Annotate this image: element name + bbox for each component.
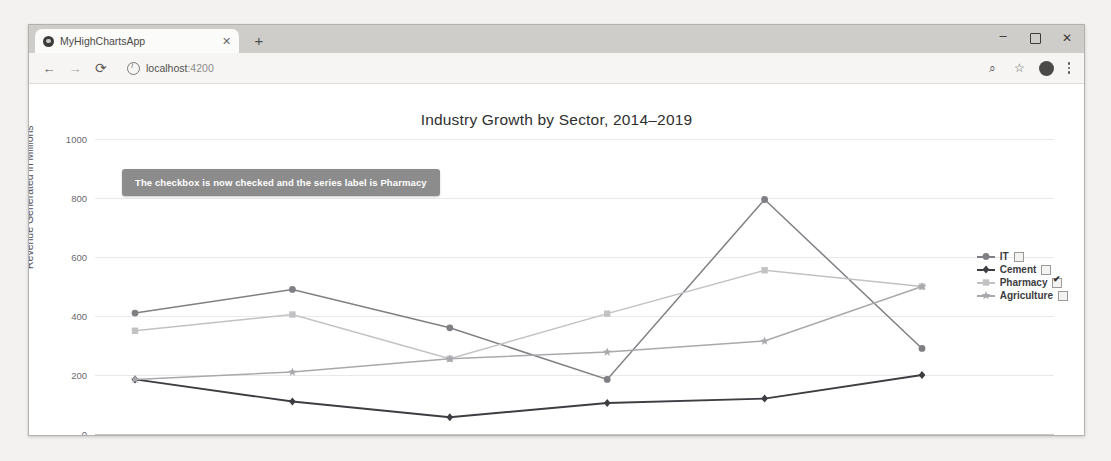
chart-legend: ITCementPharmacyAgriculture [977,251,1068,301]
data-point-cement-2015[interactable] [289,398,296,406]
data-point-agriculture-2017[interactable] [603,347,612,355]
series-line-cement [135,375,922,417]
zoom-icon[interactable]: ⌕ [983,58,1003,78]
legend-item-it[interactable]: IT [977,251,1068,262]
toolbar-right-actions: ⌕ ☆ [983,58,1076,78]
data-point-it-2016[interactable] [446,324,453,331]
address-bar-url: localhost:4200 [146,62,214,74]
legend-item-pharmacy[interactable]: Pharmacy [977,277,1068,288]
legend-label: Agriculture [1000,290,1053,301]
data-point-cement-2017[interactable] [604,399,611,407]
page-viewport: Industry Growth by Sector, 2014–2019 Rev… [29,84,1084,435]
data-point-cement-2016[interactable] [446,413,453,421]
legend-marker-circle-icon [977,252,995,261]
data-point-pharmacy-2017[interactable] [604,310,610,316]
data-point-it-2019[interactable] [919,345,926,352]
data-point-pharmacy-2015[interactable] [289,311,295,317]
legend-checkbox-agriculture[interactable] [1058,291,1068,301]
avatar-icon [1039,61,1054,76]
data-point-it-2017[interactable] [604,376,611,383]
profile-avatar[interactable] [1037,58,1057,78]
site-info-icon[interactable] [127,62,140,75]
reload-icon[interactable]: ⟳ [89,56,113,80]
legend-marker-square-icon [977,278,995,287]
back-icon[interactable]: ← [37,56,61,80]
series-line-it [135,199,922,379]
data-point-it-2015[interactable] [289,286,296,293]
data-point-cement-2019[interactable] [919,371,926,379]
data-point-pharmacy-2014[interactable] [132,328,138,334]
status-message-box: The checkbox is now checked and the seri… [122,169,440,196]
tab-title: MyHighChartsApp [60,35,213,47]
bookmark-star-icon[interactable]: ☆ [1010,58,1030,78]
data-point-it-2014[interactable] [132,310,139,317]
url-port: :4200 [187,62,213,74]
data-point-pharmacy-2018[interactable] [761,267,767,273]
new-tab-button[interactable]: + [248,30,270,52]
data-point-agriculture-2015[interactable] [288,367,297,375]
legend-checkbox-cement[interactable] [1041,265,1051,275]
close-tab-icon[interactable]: ✕ [219,36,233,47]
series-line-pharmacy [135,270,922,358]
browser-window: MyHighChartsApp ✕ + – ✕ ← → ⟳ localhost:… [28,24,1085,436]
legend-checkbox-pharmacy[interactable] [1052,278,1062,288]
close-window-button[interactable]: ✕ [1052,25,1082,51]
data-point-agriculture-2018[interactable] [760,336,769,344]
address-bar[interactable]: localhost:4200 [123,58,981,78]
legend-label: Cement [1000,264,1037,275]
legend-label: Pharmacy [1000,277,1048,288]
screenshot-root: MyHighChartsApp ✕ + – ✕ ← → ⟳ localhost:… [0,0,1111,461]
maximize-window-button[interactable] [1020,25,1050,51]
legend-label: IT [1000,251,1009,262]
series-layer [29,84,1084,435]
legend-marker-star-icon [977,291,995,300]
app-favicon-icon [43,36,54,47]
window-controls: – ✕ [988,25,1082,51]
chart-plot-area: Revenue Generated in Millions 0200400600… [29,84,1084,435]
tab-strip: MyHighChartsApp ✕ + – ✕ [29,25,1084,53]
legend-marker-diamond-icon [977,265,995,274]
data-point-cement-2018[interactable] [761,395,768,403]
url-host: localhost [146,62,187,74]
data-point-it-2018[interactable] [761,196,768,203]
minimize-window-button[interactable]: – [988,22,1018,54]
maximize-icon [1030,33,1041,44]
legend-checkbox-it[interactable] [1014,252,1024,262]
forward-icon[interactable]: → [63,56,87,80]
legend-item-agriculture[interactable]: Agriculture [977,290,1068,301]
browser-toolbar: ← → ⟳ localhost:4200 ⌕ ☆ [29,53,1084,84]
browser-tab[interactable]: MyHighChartsApp ✕ [35,29,239,53]
browser-menu-icon[interactable] [1064,62,1074,73]
series-line-agriculture [135,287,922,380]
